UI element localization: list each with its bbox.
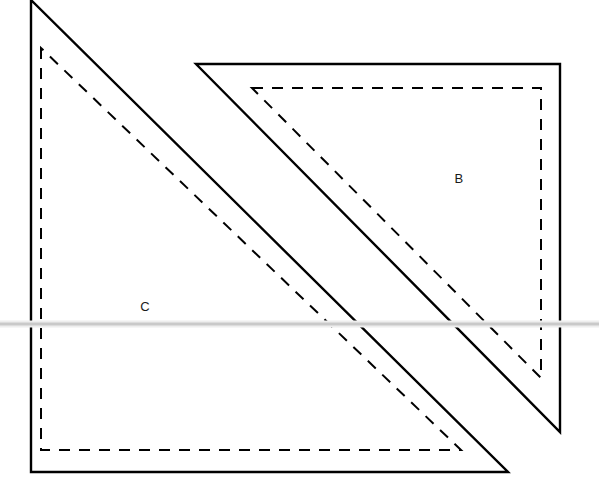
geometry-diagram: C B (0, 0, 599, 478)
shape-c-dashed-triangle (41, 48, 461, 450)
shape-label-b: B (455, 171, 464, 186)
shape-b-solid-triangle (196, 64, 560, 432)
shape-c-solid-triangle (31, 0, 508, 472)
shape-b-dashed-triangle (252, 88, 541, 378)
shape-label-c: C (140, 299, 150, 314)
diagram-canvas: C B (0, 0, 599, 478)
